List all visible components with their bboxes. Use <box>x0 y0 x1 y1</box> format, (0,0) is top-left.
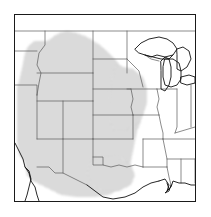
lake-superior-outline <box>135 37 177 57</box>
range-shaded-area <box>17 31 147 197</box>
lake-michigan-outline <box>161 57 171 91</box>
state-line-missouri-illinois <box>159 115 163 139</box>
range-map-figure <box>0 0 211 217</box>
michigan-lower-peninsula <box>163 59 181 87</box>
state-line-iowa-illinois <box>157 89 159 115</box>
state-line-arkansas-mississippi <box>163 139 167 167</box>
state-line-illinois-kentucky <box>175 127 195 133</box>
gulf-coastline-louisiana <box>159 179 195 191</box>
map-canvas <box>15 15 195 201</box>
map-frame <box>14 14 196 202</box>
range-lobe-plains <box>109 65 147 131</box>
state-line-illinois-indiana <box>175 89 177 133</box>
lake-huron-outline <box>177 47 191 71</box>
lake-erie-outline <box>181 75 195 85</box>
